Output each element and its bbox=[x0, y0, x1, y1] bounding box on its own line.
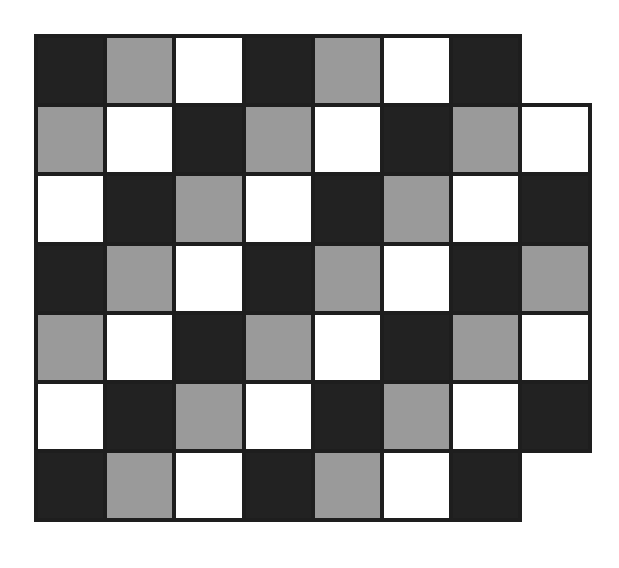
tile-gray bbox=[449, 311, 522, 384]
tile-gray bbox=[242, 103, 315, 176]
tile-gray bbox=[242, 311, 315, 384]
tile-white bbox=[103, 103, 176, 176]
tile-black bbox=[242, 242, 315, 315]
tile-white bbox=[34, 380, 107, 453]
tile-white bbox=[449, 380, 522, 453]
tile-black bbox=[449, 34, 522, 107]
tile-gray bbox=[449, 103, 522, 176]
tile-white bbox=[311, 311, 384, 384]
tile-gray bbox=[34, 311, 107, 384]
tile-white bbox=[518, 103, 591, 176]
tile-black bbox=[242, 34, 315, 107]
tile-black bbox=[449, 242, 522, 315]
tile-black bbox=[34, 242, 107, 315]
tile-white bbox=[34, 172, 107, 245]
tile-white bbox=[518, 311, 591, 384]
tile-white bbox=[103, 311, 176, 384]
tile-gray bbox=[380, 380, 453, 453]
tile-gray bbox=[380, 172, 453, 245]
tile-white bbox=[380, 242, 453, 315]
tile-black bbox=[380, 103, 453, 176]
tile-white bbox=[449, 172, 522, 245]
tile-black bbox=[34, 449, 107, 522]
tile-gray bbox=[311, 34, 384, 107]
tile-white bbox=[380, 34, 453, 107]
tile-gray bbox=[311, 449, 384, 522]
tile-gray bbox=[103, 34, 176, 107]
tile-black bbox=[103, 380, 176, 453]
tile-black bbox=[518, 380, 591, 453]
tile-gray bbox=[311, 242, 384, 315]
tile-black bbox=[34, 34, 107, 107]
tile-white bbox=[242, 172, 315, 245]
tile-gray bbox=[103, 242, 176, 315]
tile-black bbox=[380, 311, 453, 384]
tile-black bbox=[172, 311, 245, 384]
tile-white bbox=[172, 34, 245, 107]
tile-white bbox=[311, 103, 384, 176]
tile-gray bbox=[172, 380, 245, 453]
tile-white bbox=[242, 380, 315, 453]
tile-black bbox=[242, 449, 315, 522]
tile-gray bbox=[34, 103, 107, 176]
tile-white bbox=[172, 449, 245, 522]
tile-white bbox=[380, 449, 453, 522]
tile-white bbox=[172, 242, 245, 315]
tile-black bbox=[311, 172, 384, 245]
tile-black bbox=[311, 380, 384, 453]
tile-gray bbox=[103, 449, 176, 522]
tile-gray bbox=[172, 172, 245, 245]
tile-black bbox=[518, 172, 591, 245]
tile-black bbox=[103, 172, 176, 245]
tile-black bbox=[449, 449, 522, 522]
tile-black bbox=[172, 103, 245, 176]
tile-gray bbox=[518, 242, 591, 315]
tile-grid bbox=[0, 0, 619, 568]
